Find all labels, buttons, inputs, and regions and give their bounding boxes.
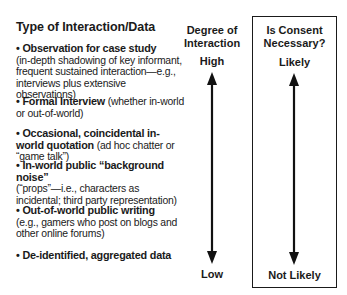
item-deidentified-data: • De-identified, aggregated data [16, 250, 184, 262]
item-detail: (“props”—i.e., characters as incidental;… [16, 183, 184, 206]
heading-line: Necessary? [252, 37, 337, 50]
item-background-noise: • In-world public “background noise” (“p… [16, 160, 184, 206]
item-out-of-world-writing: • Out-of-world public writing (e.g., gam… [16, 205, 184, 240]
consent-necessary-heading: Is Consent Necessary? [252, 24, 337, 49]
likely-label: Likely [252, 56, 337, 68]
interaction-type-title: Type of Interaction/Data [16, 20, 155, 34]
low-label: Low [190, 268, 234, 280]
heading-line: Is Consent [252, 24, 337, 37]
degree-of-interaction-heading: Degree of Interaction [180, 24, 244, 49]
high-label: High [190, 55, 234, 67]
item-label: • Observation for case study [16, 43, 184, 55]
item-occasional-quotation: • Occasional, coincidental in-world quot… [16, 128, 184, 163]
item-detail: (e.g., gamers who post on blogs and othe… [16, 217, 184, 240]
double-arrow-icon [286, 73, 302, 265]
not-likely-label: Not Likely [252, 269, 337, 281]
item-label: • Formal Interview [16, 95, 105, 107]
heading-line: Degree of [180, 24, 244, 37]
item-label: • In-world public “background noise” [16, 160, 184, 183]
double-arrow-icon [204, 72, 220, 264]
item-observation: • Observation for case study (in-depth s… [16, 43, 184, 101]
item-detail: (in-depth shadowing of key informant, fr… [16, 55, 184, 101]
item-formal-interview: • Formal Interview (whether in-world or … [16, 96, 184, 119]
item-label: • Out-of-world public writing [16, 205, 184, 217]
heading-line: Interaction [180, 37, 244, 50]
item-label: • De-identified, aggregated data [16, 250, 184, 262]
